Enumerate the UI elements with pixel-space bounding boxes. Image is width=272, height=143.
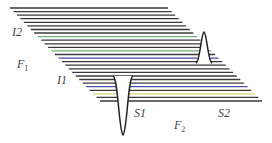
peak-s1 (113, 76, 133, 135)
label-f1: F1 (17, 58, 28, 73)
label-s2: S2 (218, 107, 230, 119)
label-i1: I1 (57, 74, 67, 86)
label-f2: F2 (174, 119, 185, 134)
label-i2: I2 (12, 26, 22, 38)
stacked-spectrum-diagram (0, 0, 272, 143)
label-s1: S1 (134, 107, 146, 119)
